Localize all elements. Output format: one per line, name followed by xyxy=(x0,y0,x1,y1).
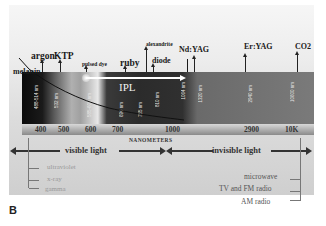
axis-title: NANOMETERS xyxy=(129,137,172,143)
spectrum-label-tv-fm-radio: TV and FM radio xyxy=(219,184,272,193)
bracket-line xyxy=(29,180,39,181)
bracket-line xyxy=(29,188,39,189)
invisible-range-arrow-right xyxy=(271,150,307,152)
invisible-light-label: invisible light xyxy=(212,145,261,155)
axis-tick: 400 xyxy=(35,125,46,134)
chromophore-label-melanin: melanin xyxy=(13,68,41,76)
bracket-line xyxy=(290,179,300,180)
panel-label: B xyxy=(9,204,17,216)
bracket-line xyxy=(300,138,301,191)
spectrum-label-gamma: gamma xyxy=(45,185,66,193)
spectrum-figure: argon KTP pulsed dye ruby alexandrite di… xyxy=(9,5,314,195)
axis-tick: 1000 xyxy=(165,125,180,134)
axis-tick: 10K xyxy=(285,125,298,134)
spectrum-label-ultraviolet: ultraviolet xyxy=(47,163,76,171)
wavelength-axis: 400 500 600 700 1000 2900 10K xyxy=(22,124,314,135)
spectrum-label-microwave: microwave xyxy=(244,172,277,181)
axis-tick: 2900 xyxy=(244,125,259,134)
spectrum-label-x-ray: x-ray xyxy=(47,175,62,183)
invisible-range-arrow-left xyxy=(171,150,213,152)
axis-tick: 500 xyxy=(58,125,69,134)
axis-tick: 700 xyxy=(112,125,123,134)
visible-range-arrow-left xyxy=(15,150,60,152)
visible-light-label: visible light xyxy=(65,145,107,155)
bracket-line xyxy=(300,190,301,201)
bracket-line xyxy=(290,200,300,201)
spectrum-label-am-radio: AM radio xyxy=(241,197,270,206)
bracket-line xyxy=(290,191,300,192)
axis-tick: 600 xyxy=(85,125,96,134)
visible-range-arrow-right xyxy=(119,150,161,152)
bracket-line xyxy=(29,168,39,169)
